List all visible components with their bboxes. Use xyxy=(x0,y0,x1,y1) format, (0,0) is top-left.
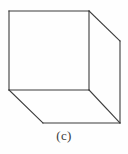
figure-panel: (c) xyxy=(0,0,128,154)
top-receding-edge xyxy=(89,11,120,41)
bottom-right-receding-edge xyxy=(89,90,120,123)
figure-caption: (c) xyxy=(0,128,128,144)
bottom-left-receding-edge xyxy=(9,90,43,123)
cube-edges xyxy=(9,11,120,123)
